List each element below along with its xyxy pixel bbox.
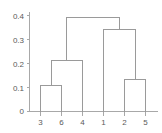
leaf-label-5: 5 [143, 118, 148, 127]
y-tick-label-3: 0.3 [13, 36, 25, 45]
dendrogram-links [41, 18, 146, 112]
x-axis-ticks [41, 112, 146, 116]
y-axis-labels: 0 0.1 0.2 0.3 0.4 [13, 12, 25, 117]
y-tick-label-2: 0.2 [13, 60, 25, 69]
dendrogram-chart: 0 0.1 0.2 0.3 0.4 3 6 4 1 2 5 [0, 0, 162, 133]
y-tick-label-1: 0.1 [13, 84, 25, 93]
leaf-label-0: 3 [38, 118, 43, 127]
leaf-label-2: 4 [80, 118, 85, 127]
x-axis-labels: 3 6 4 1 2 5 [38, 118, 148, 127]
leaf-label-1: 6 [59, 118, 64, 127]
dendrogram-link-m4 [104, 30, 136, 112]
dendrogram-plot-area: 0 0.1 0.2 0.3 0.4 3 6 4 1 2 5 [0, 0, 162, 133]
y-tick-label-0: 0 [20, 107, 25, 116]
dendrogram-link-m1 [41, 85, 62, 111]
dendrogram-link-m5 [67, 18, 120, 61]
y-tick-label-4: 0.4 [13, 12, 25, 21]
dendrogram-link-m2 [51, 61, 83, 112]
dendrogram-link-m3 [125, 80, 146, 112]
leaf-label-4: 2 [122, 118, 127, 127]
leaf-label-3: 1 [101, 118, 106, 127]
